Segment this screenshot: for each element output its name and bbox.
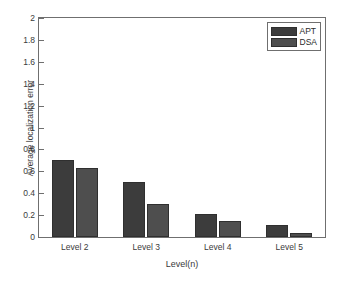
legend-label-apt: APT — [300, 27, 317, 36]
y-tick-label: 1.2 — [23, 101, 35, 110]
y-tick-label: 1 — [30, 123, 35, 132]
legend-label-dsa: DSA — [300, 38, 317, 47]
x-tick-label: Level 3 — [133, 243, 160, 252]
plot-area: 00.20.40.60.811.21.41.61.82 Level 2Level… — [38, 17, 326, 238]
y-tick-label: 0.6 — [23, 167, 35, 176]
y-tick-label: 0 — [30, 233, 35, 242]
x-axis-label: Level(n) — [38, 259, 326, 269]
y-tick-label: 1.8 — [23, 36, 35, 45]
legend-swatch-apt — [271, 27, 297, 36]
bar-dsa-level-5 — [290, 233, 312, 237]
legend: APT DSA — [267, 22, 321, 51]
bar-dsa-level-4 — [219, 221, 241, 237]
figure-canvas: Average localization error 00.20.40.60.8… — [0, 0, 338, 281]
bar-apt-level-4 — [195, 214, 217, 237]
y-axis-label-container: Average localization error — [12, 17, 22, 238]
legend-item-dsa[interactable]: DSA — [271, 37, 317, 47]
y-tick-label: 0.4 — [23, 189, 35, 198]
bar-apt-level-3 — [123, 182, 145, 237]
x-tick-label: Level 5 — [276, 243, 303, 252]
bar-dsa-level-3 — [147, 204, 169, 237]
y-tick-label: 0.2 — [23, 211, 35, 220]
x-tick-label: Level 4 — [204, 243, 231, 252]
bar-apt-level-2 — [52, 160, 74, 237]
legend-item-apt[interactable]: APT — [271, 26, 317, 36]
bar-apt-level-5 — [266, 225, 288, 237]
bar-dsa-level-2 — [76, 168, 98, 237]
x-tick-label: Level 2 — [61, 243, 88, 252]
y-tick-label: 1.4 — [23, 79, 35, 88]
y-tick-label: 2 — [30, 14, 35, 23]
legend-swatch-dsa — [271, 38, 297, 47]
y-tick-mark — [39, 237, 44, 238]
y-tick-label: 1.6 — [23, 58, 35, 67]
y-tick-label: 0.8 — [23, 145, 35, 154]
